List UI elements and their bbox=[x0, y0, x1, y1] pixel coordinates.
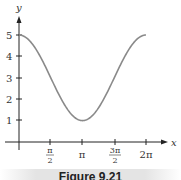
figure-caption: Figure 9.21 bbox=[0, 170, 181, 180]
cosine-curve bbox=[19, 35, 146, 121]
x-tick-2pi: 2π bbox=[140, 149, 153, 160]
cosine-chart: y x 5 4 3 2 1 π 2 π 3π 2 2π bbox=[0, 0, 181, 180]
x-tick-pi: π bbox=[79, 149, 86, 160]
x-axis-label: x bbox=[171, 137, 177, 148]
x-tick-pi-half-den: 2 bbox=[47, 156, 52, 165]
y-tick-1: 1 bbox=[6, 115, 12, 126]
y-axis-label: y bbox=[15, 2, 22, 13]
x-axis-arrow-icon bbox=[161, 140, 168, 145]
y-tick-3: 3 bbox=[6, 73, 12, 84]
y-axis-arrow-icon bbox=[17, 16, 22, 23]
x-tick-3pi-half-num: 3π bbox=[110, 146, 120, 155]
x-tick-pi-half-num: π bbox=[47, 146, 52, 155]
x-tick-3pi-half-den: 2 bbox=[112, 156, 117, 165]
y-tick-5: 5 bbox=[6, 30, 12, 41]
y-tick-4: 4 bbox=[6, 51, 12, 62]
y-tick-2: 2 bbox=[6, 94, 12, 105]
